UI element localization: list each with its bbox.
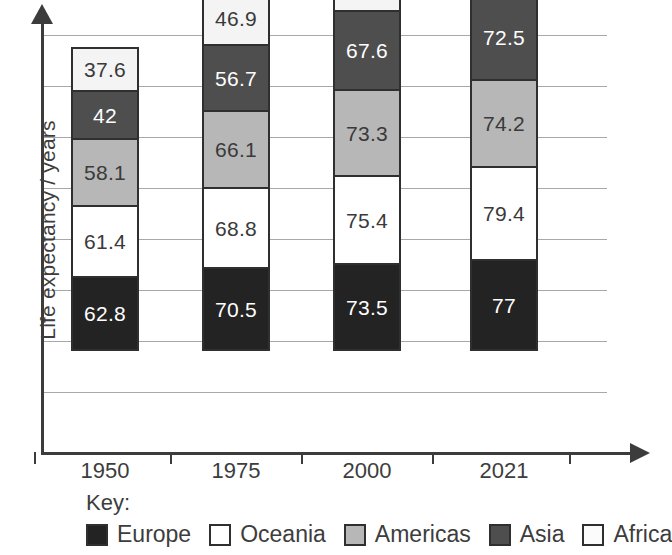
legend-label: Oceania (240, 523, 326, 546)
bar-segment-africa-1975[interactable]: 46.9 (202, 0, 270, 46)
bar-value-label: 62.8 (84, 303, 126, 324)
bar-value-label: 72.5 (483, 27, 525, 48)
bar-segment-europe-2021[interactable]: 77 (470, 259, 538, 351)
bar-segment-oceania-1975[interactable]: 68.8 (202, 187, 270, 269)
bar-value-label: 42 (93, 105, 117, 126)
legend-swatch-americas (344, 524, 366, 546)
bar-value-label: 74.2 (483, 113, 525, 134)
x-axis-tick-2021: 2021 (444, 458, 564, 484)
bar-segment-europe-1950[interactable]: 62.8 (71, 276, 139, 351)
legend-label: Americas (375, 523, 471, 546)
bar-segment-asia-2000[interactable]: 67.6 (333, 10, 401, 91)
legend-item-asia[interactable]: Asia (489, 523, 565, 546)
bar-value-label: 73.3 (346, 123, 388, 144)
bar-stack-2021[interactable]: 7779.474.272.561.7 (470, 0, 538, 349)
bar-segment-asia-1975[interactable]: 56.7 (202, 44, 270, 112)
legend-swatch-africa (582, 524, 604, 546)
bar-value-label: 58.1 (84, 162, 126, 183)
legend-item-americas[interactable]: Americas (344, 523, 471, 546)
key-title: Key: (86, 490, 130, 516)
bar-value-label: 73.5 (346, 297, 388, 318)
bar-segment-europe-1975[interactable]: 70.5 (202, 267, 270, 351)
x-axis-tickmark (170, 452, 172, 464)
legend-swatch-asia (489, 524, 511, 546)
legend-label: Asia (520, 523, 565, 546)
bar-segment-oceania-1950[interactable]: 61.4 (71, 205, 139, 278)
bar-value-label: 56.7 (215, 68, 257, 89)
bar-segment-americas-2000[interactable]: 73.3 (333, 89, 401, 177)
x-axis-tick-1975: 1975 (176, 458, 296, 484)
bar-stack-1975[interactable]: 70.568.866.156.746.9 (202, 0, 270, 349)
legend-item-oceania[interactable]: Oceania (209, 523, 326, 546)
x-axis-tickmark (432, 452, 434, 464)
legend-item-europe[interactable]: Europe (86, 523, 191, 546)
bar-stack-1950[interactable]: 62.861.458.14237.6 (71, 47, 139, 349)
bar-value-label: 79.4 (483, 203, 525, 224)
chart-legend: EuropeOceaniaAmericasAsiaAfrica (86, 523, 672, 546)
bar-value-label: 70.5 (215, 299, 257, 320)
x-axis-tickmark (301, 452, 303, 464)
bar-segment-americas-1950[interactable]: 58.1 (71, 138, 139, 207)
x-axis-tick-1950: 1950 (45, 458, 165, 484)
bar-value-label: 61.4 (84, 231, 126, 252)
x-axis-tickmark (34, 452, 36, 464)
bar-value-label: 46.9 (215, 8, 257, 29)
bar-value-label: 75.4 (346, 210, 388, 231)
bar-segment-americas-1975[interactable]: 66.1 (202, 110, 270, 189)
bar-segment-oceania-2021[interactable]: 79.4 (470, 166, 538, 261)
legend-item-africa[interactable]: Africa (582, 523, 672, 546)
bar-segment-europe-2000[interactable]: 73.5 (333, 263, 401, 351)
legend-swatch-europe (86, 524, 108, 546)
bar-stack-2000[interactable]: 73.575.473.367.653.3 (333, 0, 401, 349)
bar-segment-oceania-2000[interactable]: 75.4 (333, 175, 401, 265)
x-axis-tick-2000: 2000 (307, 458, 427, 484)
legend-label: Africa (613, 523, 672, 546)
bar-value-label: 67.6 (346, 40, 388, 61)
bar-value-label: 66.1 (215, 139, 257, 160)
bar-segment-africa-1950[interactable]: 37.6 (71, 47, 139, 92)
bar-value-label: 77 (492, 295, 516, 316)
legend-label: Europe (117, 523, 191, 546)
bar-segment-asia-2021[interactable]: 72.5 (470, 0, 538, 81)
legend-swatch-oceania (209, 524, 231, 546)
bar-value-label: 37.6 (84, 59, 126, 80)
bar-value-label: 68.8 (215, 218, 257, 239)
x-axis-tickmark (569, 452, 571, 464)
bar-segment-asia-1950[interactable]: 42 (71, 90, 139, 140)
bar-segment-americas-2021[interactable]: 74.2 (470, 79, 538, 168)
